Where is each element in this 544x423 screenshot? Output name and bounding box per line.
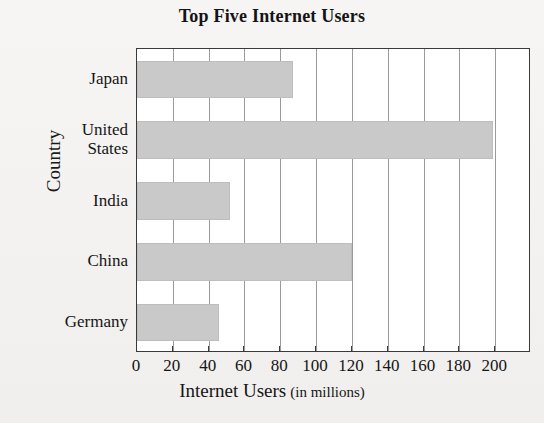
bar xyxy=(137,121,493,159)
x-tick-label: 40 xyxy=(188,356,228,376)
y-tick-label: Japan xyxy=(8,69,128,88)
x-tick-label: 160 xyxy=(403,356,443,376)
x-tick-mark xyxy=(208,346,209,352)
y-tick-label: Germany xyxy=(8,312,128,331)
x-tick-mark xyxy=(387,346,388,352)
y-tick-label: UnitedStates xyxy=(8,120,128,158)
chart-title: Top Five Internet Users xyxy=(0,6,544,27)
y-tick-label: India xyxy=(8,191,128,210)
x-tick-label: 100 xyxy=(295,356,335,376)
bar xyxy=(137,304,219,342)
x-tick-mark xyxy=(351,346,352,352)
x-tick-mark xyxy=(423,346,424,352)
x-tick-label: 200 xyxy=(474,356,514,376)
x-tick-mark xyxy=(494,346,495,352)
x-tick-label: 60 xyxy=(223,356,263,376)
y-tick-label: China xyxy=(8,251,128,270)
x-axis-title-sub: (in millions) xyxy=(290,384,365,400)
x-tick-label: 0 xyxy=(116,356,156,376)
x-tick-label: 180 xyxy=(438,356,478,376)
chart-page: Top Five Internet Users JapanUnitedState… xyxy=(0,0,544,423)
bar xyxy=(137,61,293,99)
x-tick-mark xyxy=(172,346,173,352)
bar-series xyxy=(137,49,529,351)
x-tick-mark xyxy=(243,346,244,352)
x-tick-label: 120 xyxy=(331,356,371,376)
x-tick-mark xyxy=(315,346,316,352)
x-tick-mark xyxy=(136,346,137,352)
bar xyxy=(137,182,230,220)
x-axis-title: Internet Users (in millions) xyxy=(0,380,544,402)
x-tick-label: 140 xyxy=(367,356,407,376)
x-tick-label: 80 xyxy=(259,356,299,376)
x-tick-mark xyxy=(279,346,280,352)
x-tick-mark xyxy=(458,346,459,352)
x-axis-title-main: Internet Users xyxy=(179,380,286,401)
y-axis-title: Country xyxy=(43,101,65,221)
x-tick-label: 20 xyxy=(152,356,192,376)
bar xyxy=(137,243,352,281)
plot-area xyxy=(136,48,530,352)
